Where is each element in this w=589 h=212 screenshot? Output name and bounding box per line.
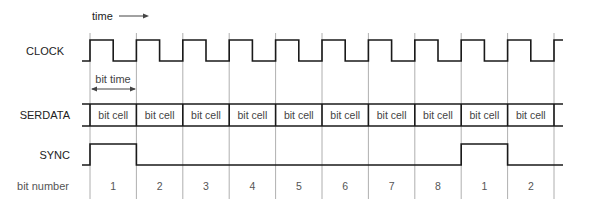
- bit-time-double-arrow-icon: [91, 87, 136, 92]
- bit-cell-label: bit cell: [238, 109, 268, 121]
- sync-waveform: [82, 144, 563, 165]
- bit-cell-label: bit cell: [191, 109, 221, 121]
- bit-number: 2: [528, 180, 534, 192]
- timing-diagram: time CLOCK SERDATA SYNC bit number bit t…: [0, 0, 589, 212]
- time-arrow-icon: [119, 14, 149, 19]
- bit-number: 4: [249, 180, 255, 192]
- bit-number: 8: [435, 180, 441, 192]
- bit-number: 5: [296, 180, 302, 192]
- clock-waveform: [82, 40, 563, 61]
- bit-cell-label: bit cell: [145, 109, 175, 121]
- bit-number: 6: [342, 180, 348, 192]
- time-label: time: [92, 10, 113, 22]
- bit-number: 3: [203, 180, 209, 192]
- bit-cell-label: bit cell: [377, 109, 407, 121]
- bit-cell-label: bit cell: [284, 109, 314, 121]
- bit-cell-label: bit cell: [423, 109, 453, 121]
- bit-number: 7: [389, 180, 395, 192]
- bit-cell-label: bit cell: [98, 109, 128, 121]
- bit-number: 2: [157, 180, 163, 192]
- bit-time-label: bit time: [95, 73, 130, 85]
- bit-cell-label: bit cell: [516, 109, 546, 121]
- clock-label: CLOCK: [26, 45, 65, 57]
- bit-cell-label: bit cell: [470, 109, 500, 121]
- bit-number: 1: [110, 180, 116, 192]
- sync-label: SYNC: [39, 149, 70, 161]
- serdata-label: SERDATA: [20, 109, 71, 121]
- bit-number-label: bit number: [17, 180, 69, 192]
- bit-cell-label: bit cell: [330, 109, 360, 121]
- bit-number: 1: [481, 180, 487, 192]
